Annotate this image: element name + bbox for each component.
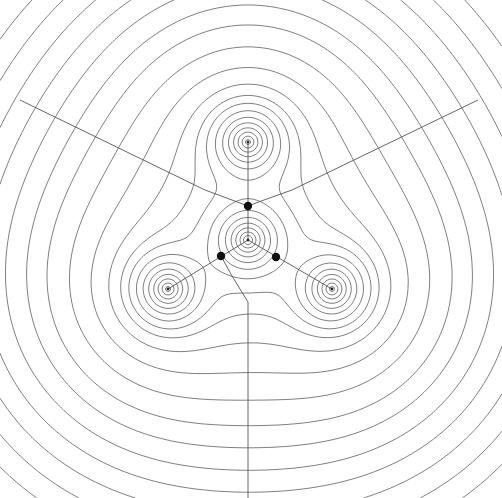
nucleus-right [331, 288, 334, 291]
contour-line [154, 128, 346, 304]
density-contours [0, 0, 502, 498]
interatomic-surface-line [20, 100, 248, 206]
contour-line [129, 103, 371, 329]
contour-line [0, 0, 502, 498]
interatomic-surface-lines [20, 100, 478, 498]
nucleus-top [247, 141, 250, 144]
contour-line [6, 0, 494, 470]
contour-line [47, 25, 452, 426]
interatomic-surface-line [221, 256, 248, 498]
contour-line [0, 0, 502, 498]
bcp-left [217, 252, 225, 260]
interatomic-surface-line [248, 100, 478, 206]
nucleus-left [167, 288, 170, 291]
contour-line [149, 123, 352, 309]
contour-line [0, 0, 502, 498]
contour-line [121, 95, 379, 337]
bond-path [248, 240, 332, 289]
bond-path-lines [168, 142, 332, 289]
bcp-right [272, 253, 280, 261]
contour-line [158, 132, 342, 299]
density-contour-diagram [0, 0, 502, 498]
nuclei-markers [167, 141, 334, 291]
contour-line [109, 84, 391, 351]
bcp-top [244, 202, 252, 210]
nucleus-center [247, 239, 250, 242]
